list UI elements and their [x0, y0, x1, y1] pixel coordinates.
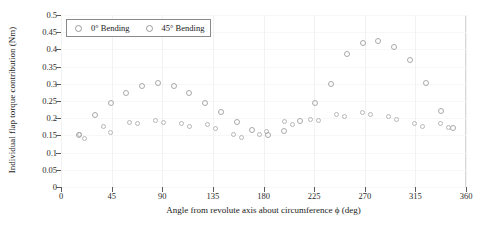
- chart-legend: 0° Bending 45° Bending: [66, 19, 211, 37]
- gridline-vertical: [213, 15, 214, 188]
- y-axis-tick: [56, 15, 61, 16]
- gridline-vertical: [415, 15, 416, 188]
- data-point: [153, 118, 158, 123]
- data-point: [297, 118, 303, 124]
- y-axis-tick: [56, 49, 61, 50]
- data-point: [202, 100, 208, 106]
- data-point: [360, 40, 366, 46]
- data-point: [407, 57, 413, 63]
- gridline-vertical: [466, 15, 467, 188]
- y-axis-tick: [56, 135, 61, 136]
- open-circle-icon: [73, 23, 84, 34]
- data-point: [234, 119, 240, 125]
- data-point: [412, 121, 417, 126]
- data-point: [171, 83, 177, 89]
- data-point: [249, 127, 255, 133]
- legend-label-45-bending: 45° Bending: [162, 23, 205, 33]
- gridline-vertical: [162, 15, 163, 188]
- data-point: [127, 120, 132, 125]
- data-point: [438, 121, 443, 126]
- data-point: [155, 80, 161, 86]
- x-axis-tick-label: 180: [257, 191, 270, 201]
- data-point: [187, 124, 192, 129]
- y-axis-tick: [56, 84, 61, 85]
- data-point: [394, 117, 399, 122]
- data-point: [368, 112, 373, 117]
- y-axis-tick-label: 0.45: [42, 27, 57, 37]
- chart-container: Individual flap torque contribution (Nm)…: [0, 0, 486, 230]
- y-axis-tick-label: 0.35: [42, 62, 57, 72]
- open-circle-icon: [144, 23, 155, 34]
- data-point: [179, 121, 184, 126]
- plot-area: [61, 15, 466, 188]
- x-axis-tick-label: 225: [308, 191, 321, 201]
- data-point: [391, 44, 397, 50]
- y-axis-tick: [56, 153, 61, 154]
- x-axis-tick-label: 45: [107, 191, 116, 201]
- legend-entry-45-bending: 45° Bending: [144, 23, 205, 34]
- data-point: [213, 126, 218, 131]
- data-point: [82, 136, 87, 141]
- gridline-vertical: [264, 15, 265, 188]
- data-point: [316, 118, 321, 123]
- x-axis-tick-label: 360: [460, 191, 473, 201]
- y-axis-tick-labels: 00.050.10.150.20.250.30.350.40.450.5: [0, 15, 57, 188]
- data-point: [344, 51, 350, 57]
- data-point: [101, 124, 106, 129]
- data-point: [218, 109, 224, 115]
- data-point: [386, 114, 391, 119]
- data-point: [239, 135, 244, 140]
- y-axis-tick: [56, 170, 61, 171]
- data-point: [438, 108, 444, 114]
- data-point: [282, 119, 287, 124]
- data-point: [205, 122, 210, 127]
- data-point: [312, 100, 318, 106]
- data-point: [423, 80, 429, 86]
- y-axis-tick-label: 0.25: [42, 96, 57, 106]
- x-axis-tick-label: 90: [158, 191, 167, 201]
- data-point: [308, 117, 313, 122]
- legend-entry-0-bending: 0° Bending: [73, 23, 130, 34]
- data-point: [290, 122, 295, 127]
- y-axis-tick-label: 0.05: [42, 165, 57, 175]
- data-point: [420, 124, 425, 129]
- y-axis-tick: [56, 101, 61, 102]
- data-point: [328, 81, 334, 87]
- data-point: [108, 100, 114, 106]
- data-point: [186, 90, 192, 96]
- data-point: [135, 121, 140, 126]
- legend-label-0-bending: 0° Bending: [91, 23, 130, 33]
- data-point: [76, 132, 82, 138]
- y-axis-tick: [56, 118, 61, 119]
- x-axis-tick-label: 135: [207, 191, 220, 201]
- data-point: [231, 132, 236, 137]
- x-axis-tick-label: 315: [409, 191, 422, 201]
- y-axis-tick: [56, 67, 61, 68]
- data-point: [360, 110, 365, 115]
- x-axis-tick-label: 270: [358, 191, 371, 201]
- x-axis-tick-label: 0: [59, 191, 63, 201]
- data-point: [139, 83, 145, 89]
- y-axis-tick: [56, 32, 61, 33]
- data-point: [161, 120, 166, 125]
- x-axis-title: Angle from revolute axis about circumfer…: [61, 205, 466, 215]
- y-axis-tick-label: 0.15: [42, 130, 57, 140]
- data-point: [375, 38, 381, 44]
- data-point: [334, 112, 339, 117]
- data-point: [123, 90, 129, 96]
- data-point: [257, 132, 262, 137]
- gridline-vertical: [61, 15, 62, 188]
- data-point: [281, 128, 287, 134]
- data-point: [265, 132, 271, 138]
- data-point: [450, 125, 456, 131]
- data-point: [342, 114, 347, 119]
